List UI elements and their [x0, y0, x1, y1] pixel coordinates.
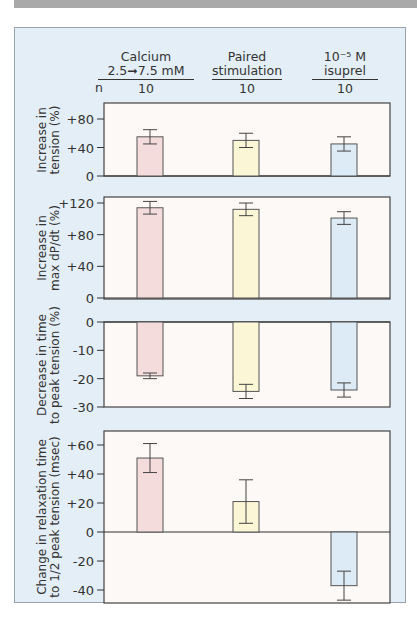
- bar: [137, 322, 163, 376]
- y-axis-label: Decrease in timeto peak tension (%): [35, 306, 62, 424]
- y-tick-label: +40: [67, 467, 94, 482]
- y-axis-label-line: max dP/dt (%): [48, 205, 62, 291]
- y-tick-label: 0: [86, 315, 94, 330]
- bar: [331, 322, 357, 390]
- y-tick-label: 0: [86, 525, 94, 540]
- bar: [137, 208, 163, 298]
- chart-panel-3: 0-10-20-30Decrease in timeto peak tensio…: [35, 306, 390, 424]
- bar: [233, 322, 259, 391]
- y-axis-label-line: to 1/2 peak tension (msec): [48, 436, 62, 597]
- y-tick-label: -40: [73, 583, 94, 598]
- y-tick-label: +40: [67, 259, 94, 274]
- y-axis-label-line: Increase in: [35, 107, 49, 173]
- y-axis-label-line: to peak tension (%): [48, 306, 62, 424]
- y-tick-label: -20: [73, 554, 94, 569]
- y-tick-label: +20: [67, 496, 94, 511]
- y-tick-label: 0: [86, 169, 94, 184]
- y-tick-label: -10: [73, 343, 94, 358]
- y-tick-label: +60: [67, 438, 94, 453]
- bar: [233, 209, 259, 298]
- y-tick-label: -20: [73, 372, 94, 387]
- y-tick-label: +40: [67, 141, 94, 156]
- y-tick-label: -30: [73, 400, 94, 415]
- y-axis-label-line: Change in relaxation time: [35, 439, 49, 595]
- chart-panel-1: 0+40+80Increase intension (%): [35, 103, 390, 184]
- chart-panel-2: 0+40+80+120Increase inmax dP/dt (%): [35, 196, 390, 306]
- bar: [331, 218, 357, 298]
- y-tick-label: +120: [58, 196, 94, 211]
- bar-charts: 0+40+80Increase intension (%)0+40+80+120…: [0, 0, 417, 640]
- y-axis-label-line: Increase in: [35, 215, 49, 281]
- y-axis-label-line: Decrease in time: [35, 314, 49, 416]
- y-axis-label: Increase intension (%): [35, 106, 62, 175]
- y-tick-label: +80: [67, 228, 94, 243]
- chart-panel-4: -40-200+20+40+60Change in relaxation tim…: [35, 431, 390, 603]
- y-axis-label: Increase inmax dP/dt (%): [35, 205, 62, 291]
- y-tick-label: +80: [67, 112, 94, 127]
- y-tick-label: 0: [86, 291, 94, 306]
- y-axis-label-line: tension (%): [48, 106, 62, 175]
- y-axis-label: Change in relaxation timeto 1/2 peak ten…: [35, 436, 62, 597]
